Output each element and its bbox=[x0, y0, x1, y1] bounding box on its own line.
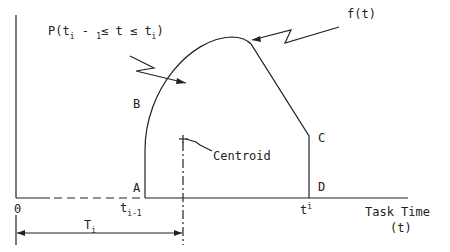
ft-leader-arrow bbox=[252, 27, 339, 43]
origin-label: 0 bbox=[14, 203, 21, 215]
point-A-label: A bbox=[133, 182, 140, 194]
probability-label: P(ti - 1≤ t ≤ ti) bbox=[48, 25, 164, 37]
f-curve bbox=[145, 37, 309, 198]
centroid-label: Centroid bbox=[213, 150, 271, 162]
t-i-label: ti bbox=[300, 204, 312, 216]
centroid-leader bbox=[186, 139, 212, 151]
ft-label: f(t) bbox=[347, 8, 376, 20]
x-axis-unit: (t) bbox=[390, 222, 412, 234]
Ti-label: Ti bbox=[84, 219, 96, 231]
point-C-label: C bbox=[318, 132, 325, 144]
x-axis-title: Task Time bbox=[365, 206, 430, 218]
t-prev-label: ti-1 bbox=[120, 202, 142, 214]
point-D-label: D bbox=[318, 181, 325, 193]
point-B-label: B bbox=[133, 98, 140, 110]
